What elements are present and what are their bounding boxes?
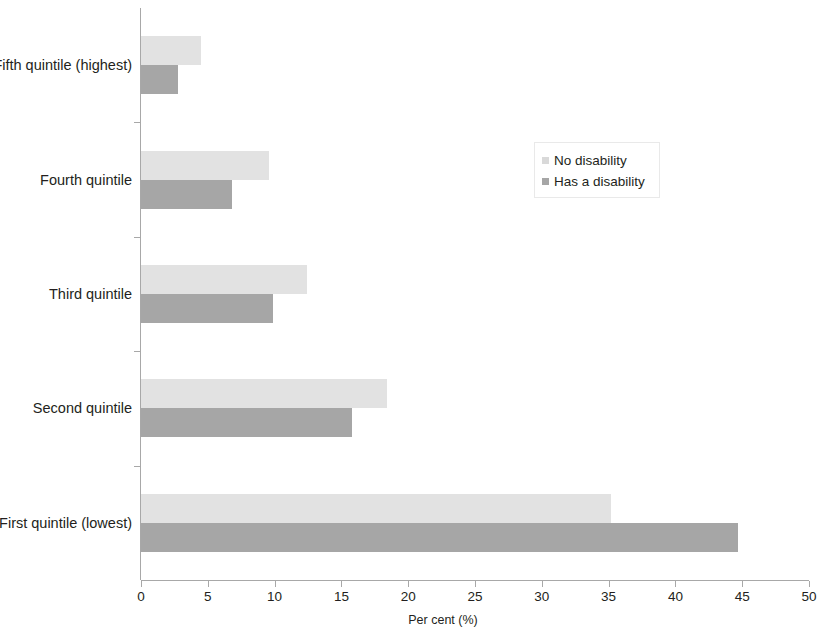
- x-axis-tick-label: 30: [534, 589, 549, 604]
- bar-chart: Fifth quintile (highest)Fourth quintileT…: [0, 0, 818, 631]
- x-axis-title: Per cent (%): [0, 613, 818, 627]
- x-axis-title-text: Per cent (%): [408, 613, 477, 627]
- x-axis-tick: [809, 581, 810, 587]
- bar-has-a-disability: [141, 294, 273, 323]
- x-axis-tick-label: 5: [204, 589, 212, 604]
- legend-swatch-icon-no-disability: [542, 157, 549, 164]
- bar-has-a-disability: [141, 523, 738, 552]
- legend-label-has-a-disability: Has a disability: [554, 174, 645, 189]
- bar-has-a-disability: [141, 65, 178, 94]
- bar-has-a-disability: [141, 408, 352, 437]
- y-axis-category-label: Fourth quintile: [40, 172, 132, 188]
- bar-no-disability: [141, 379, 387, 408]
- y-axis-tick: [134, 237, 141, 238]
- chart-legend: No disability Has a disability: [534, 142, 660, 198]
- x-axis-tick-label: 40: [668, 589, 683, 604]
- y-axis-category-label: Second quintile: [33, 400, 132, 416]
- y-axis-tick: [134, 351, 141, 352]
- legend-item-has-a-disability: Has a disability: [542, 171, 659, 192]
- bar-no-disability: [141, 151, 269, 180]
- x-axis-tick-label: 15: [334, 589, 349, 604]
- x-axis-tick: [542, 581, 543, 587]
- y-axis-category-label: Third quintile: [49, 286, 132, 302]
- x-axis-tick: [275, 581, 276, 587]
- x-axis-tick-label: 25: [467, 589, 482, 604]
- x-axis-tick-label: 0: [137, 589, 145, 604]
- legend-item-no-disability: No disability: [542, 150, 659, 171]
- x-axis-tick: [141, 581, 142, 587]
- x-axis-tick-label: 20: [401, 589, 416, 604]
- legend-swatch-icon-has-a-disability: [542, 178, 549, 185]
- bar-no-disability: [141, 494, 611, 523]
- bar-no-disability: [141, 265, 307, 294]
- x-axis-tick-label: 50: [801, 589, 816, 604]
- y-axis-category-label: Fifth quintile (highest): [0, 57, 132, 73]
- x-axis-tick: [675, 581, 676, 587]
- x-axis-tick: [341, 581, 342, 587]
- x-axis-tick: [742, 581, 743, 587]
- legend-label-no-disability: No disability: [554, 153, 627, 168]
- x-axis-tick: [475, 581, 476, 587]
- x-axis-tick-label: 10: [267, 589, 282, 604]
- x-axis-tick: [609, 581, 610, 587]
- y-axis-tick: [134, 122, 141, 123]
- bar-no-disability: [141, 36, 201, 65]
- y-axis-category-label: First quintile (lowest): [0, 515, 132, 531]
- x-axis-tick-label: 45: [735, 589, 750, 604]
- x-axis-tick: [408, 581, 409, 587]
- x-axis-tick-label: 35: [601, 589, 616, 604]
- y-axis-tick: [134, 466, 141, 467]
- bar-has-a-disability: [141, 180, 232, 209]
- x-axis-tick: [208, 581, 209, 587]
